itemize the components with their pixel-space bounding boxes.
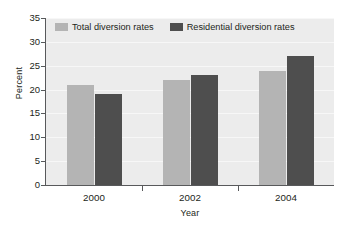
y-axis-tick-labels: 05101520253035 [14, 18, 40, 185]
y-axis-tick-label: 25 [14, 61, 40, 70]
plot-area [46, 18, 334, 185]
chart-legend: Total diversion ratesResidential diversi… [55, 22, 294, 32]
y-axis-tick-mark [41, 66, 46, 67]
y-axis-tick-mark [41, 18, 46, 19]
legend-entry-2: Residential diversion rates [170, 22, 295, 32]
x-axis-title: Year [46, 208, 334, 218]
y-axis-tick-mark [41, 161, 46, 162]
bar-2000-series-2 [95, 94, 122, 185]
legend-label: Residential diversion rates [187, 22, 295, 32]
bar-2004-series-2 [287, 56, 314, 185]
bar-2002-series-2 [191, 75, 218, 185]
y-axis-tick-label: 20 [14, 85, 40, 94]
x-axis-tick-label: 2004 [256, 192, 316, 203]
bar-2004-series-1 [259, 71, 286, 186]
y-axis-tick-label: 30 [14, 37, 40, 46]
y-axis-tick-mark [41, 90, 46, 91]
y-axis-tick-label: 15 [14, 108, 40, 117]
y-axis-tick-mark [41, 113, 46, 114]
y-axis-tick-label: 10 [14, 132, 40, 141]
x-axis-line [45, 185, 334, 186]
y-axis-tick-label: 35 [14, 13, 40, 22]
x-axis-tick-label: 2002 [160, 192, 220, 203]
x-axis-tick-label: 2000 [64, 192, 124, 203]
y-axis-tick-mark [41, 137, 46, 138]
y-axis-tick-mark [41, 185, 46, 186]
bar-2000-series-1 [67, 85, 94, 185]
gridline [46, 18, 334, 19]
y-axis-tick-mark [41, 42, 46, 43]
x-axis-tick-mark [238, 186, 239, 191]
legend-label: Total diversion rates [72, 22, 154, 32]
bar-2002-series-1 [163, 80, 190, 185]
y-axis-tick-label: 0 [14, 180, 40, 189]
legend-swatch-icon [55, 23, 68, 31]
y-axis-tick-label: 5 [14, 156, 40, 165]
gridline [46, 42, 334, 43]
legend-swatch-icon [170, 23, 183, 31]
legend-entry-1: Total diversion rates [55, 22, 154, 32]
x-axis-tick-mark [142, 186, 143, 191]
bar-chart-figure: Percent 05101520253035 Total diversion r… [0, 0, 343, 229]
